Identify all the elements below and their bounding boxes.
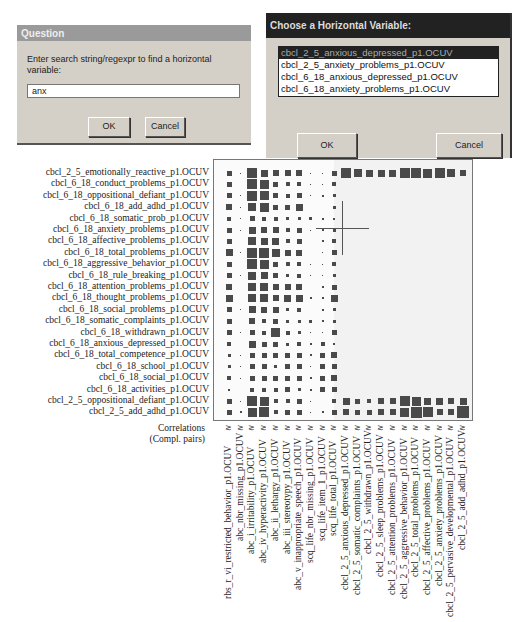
matrix-cell[interactable] [285,250,291,256]
matrix-cell[interactable] [240,173,241,174]
matrix-cell[interactable] [322,240,324,242]
matrix-cell[interactable] [297,410,302,415]
variable-option[interactable]: cbcl_6_18_anxious_depressed_p1.OCUV [279,71,498,83]
matrix-cell[interactable] [227,410,232,415]
matrix-cell[interactable] [322,229,324,231]
matrix-cell[interactable] [322,184,323,185]
matrix-cell[interactable] [260,260,269,269]
matrix-cell[interactable] [272,249,280,257]
matrix-cell[interactable] [285,387,290,392]
matrix-cell[interactable] [296,170,302,176]
matrix-cell[interactable] [261,238,268,245]
matrix-cell[interactable] [378,409,384,415]
matrix-cell[interactable] [227,376,231,380]
matrix-cell[interactable] [227,330,232,335]
matrix-cell[interactable] [448,398,454,404]
matrix-cell[interactable] [310,412,311,413]
matrix-cell[interactable] [331,352,337,358]
matrix-cell[interactable] [310,230,311,231]
matrix-cell[interactable] [273,353,278,358]
matrix-cell[interactable] [227,171,232,176]
matrix-cell[interactable] [297,308,301,312]
matrix-cell[interactable] [262,331,266,335]
matrix-cell[interactable] [247,179,257,189]
matrix-cell[interactable] [448,409,454,415]
matrix-cell[interactable] [310,297,312,299]
matrix-cell[interactable] [285,353,290,358]
matrix-cell[interactable] [296,284,302,290]
matrix-cell[interactable] [240,332,241,333]
matrix-cell[interactable] [227,182,232,187]
matrix-cell[interactable] [248,272,256,280]
matrix-cell[interactable] [332,182,336,186]
matrix-cell[interactable] [332,387,337,392]
matrix-cell[interactable] [378,398,384,404]
matrix-cell[interactable] [322,264,323,265]
matrix-cell[interactable] [297,399,302,404]
matrix-cell[interactable] [310,173,311,174]
variable-option[interactable]: cbcl_6_18_anxiety_problems_p1.OCUV [279,83,498,95]
matrix-cell[interactable] [262,364,267,369]
matrix-cell[interactable] [249,341,256,348]
matrix-cell[interactable] [286,331,290,335]
matrix-cell[interactable] [333,343,335,345]
matrix-cell[interactable] [460,398,467,405]
matrix-cell[interactable] [332,262,336,266]
matrix-cell[interactable] [435,168,445,178]
matrix-cell[interactable] [310,275,311,276]
matrix-cell[interactable] [285,170,291,176]
matrix-cell[interactable] [286,399,290,403]
matrix-cell[interactable] [286,320,289,323]
matrix-cell[interactable] [297,353,302,358]
matrix-cell[interactable] [332,330,337,335]
matrix-cell[interactable] [273,170,279,176]
matrix-cell[interactable] [320,353,325,358]
matrix-cell[interactable] [298,331,301,334]
matrix-cell[interactable] [296,295,303,302]
matrix-cell[interactable] [249,227,256,234]
matrix-cell[interactable] [286,194,290,198]
matrix-cell[interactable] [423,407,433,417]
matrix-cell[interactable] [297,239,302,244]
matrix-cell[interactable] [260,283,268,291]
matrix-cell[interactable] [285,364,290,369]
matrix-cell[interactable] [437,409,443,415]
matrix-cell[interactable] [331,295,338,302]
matrix-cell[interactable] [310,366,311,367]
matrix-cell[interactable] [285,376,290,381]
matrix-cell[interactable] [273,182,278,187]
matrix-cell[interactable] [297,364,302,369]
matrix-cell[interactable] [240,218,241,219]
matrix-cell[interactable] [333,206,336,209]
matrix-cell[interactable] [320,364,325,369]
matrix-cell[interactable] [261,227,267,233]
matrix-cell[interactable] [240,195,241,196]
matrix-cell[interactable] [227,262,232,267]
matrix-cell[interactable] [226,295,233,302]
matrix-cell[interactable] [227,319,232,324]
matrix-cell[interactable] [343,398,350,405]
choose-ok-button[interactable]: OK [297,133,357,158]
variable-option[interactable]: cbcl_2_5_anxious_depressed_p1.OCUV [279,47,498,59]
matrix-cell[interactable] [274,217,278,221]
matrix-cell[interactable] [260,294,268,302]
matrix-cell[interactable] [262,217,266,221]
matrix-cell[interactable] [298,320,301,323]
matrix-cell[interactable] [333,320,336,323]
question-ok-button[interactable]: OK [88,117,130,137]
correlation-matrix-plot[interactable] [213,159,473,421]
matrix-cell[interactable] [248,203,256,211]
matrix-cell[interactable] [309,320,312,323]
matrix-cell[interactable] [322,252,323,253]
matrix-cell[interactable] [341,168,351,178]
matrix-cell[interactable] [262,353,267,358]
matrix-cell[interactable] [297,193,302,198]
matrix-cell[interactable] [332,410,337,415]
matrix-cell[interactable] [411,407,422,418]
matrix-cell[interactable] [367,410,372,415]
matrix-cell[interactable] [284,295,291,302]
matrix-cell[interactable] [227,273,232,278]
matrix-cell[interactable] [320,376,325,381]
matrix-cell[interactable] [400,396,410,406]
matrix-cell[interactable] [273,284,279,290]
